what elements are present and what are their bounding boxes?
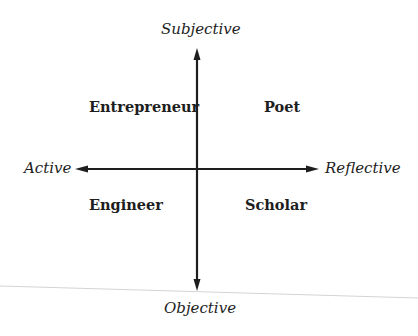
axis-label-active: Active [24, 161, 71, 176]
quadrant-label-poet: Poet [264, 100, 300, 115]
quadrant-label-entrepreneur: Entrepreneur [89, 100, 199, 115]
quadrant-label-engineer: Engineer [89, 198, 163, 213]
arrow-left-icon [75, 166, 88, 173]
axis-label-objective: Objective [164, 301, 236, 316]
quadrant-label-scholar: Scholar [245, 198, 307, 213]
scan-line [0, 286, 418, 298]
axis-label-subjective: Subjective [161, 22, 241, 37]
axis-label-reflective: Reflective [325, 161, 401, 176]
arrow-up-icon [194, 48, 201, 60]
arrow-down-icon [194, 279, 201, 291]
arrow-right-icon [306, 166, 319, 173]
